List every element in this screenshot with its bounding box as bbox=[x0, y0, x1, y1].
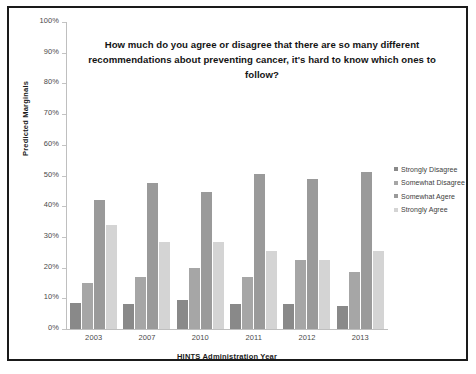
bar bbox=[319, 260, 330, 329]
y-tick-mark bbox=[62, 268, 66, 269]
x-tick-label: 2012 bbox=[280, 333, 333, 342]
bar bbox=[295, 260, 306, 329]
y-tick-mark bbox=[62, 329, 66, 330]
bar bbox=[337, 306, 348, 329]
x-tick-label: 2007 bbox=[120, 333, 173, 342]
bar bbox=[283, 304, 294, 329]
y-axis-title: Predicted Marginals bbox=[21, 81, 30, 156]
y-tick-label: 0% bbox=[48, 323, 59, 332]
chart-legend: Strongly DisagreeSomewhat DisagreeSomewh… bbox=[394, 165, 474, 219]
bar bbox=[70, 303, 81, 329]
y-tick-mark bbox=[62, 83, 66, 84]
legend-label: Strongly Agree bbox=[401, 206, 448, 213]
legend-label: Somewhat Agere bbox=[401, 193, 455, 200]
y-tick-mark bbox=[62, 298, 66, 299]
legend-item: Somewhat Disagree bbox=[394, 179, 474, 187]
legend-swatch-icon bbox=[394, 167, 398, 171]
bar bbox=[159, 242, 170, 329]
bar bbox=[94, 200, 105, 329]
bar bbox=[242, 277, 253, 329]
y-tick-label: 60% bbox=[44, 139, 59, 148]
y-tick-mark bbox=[62, 114, 66, 115]
y-tick-label: 100% bbox=[39, 16, 59, 25]
y-tick-label: 70% bbox=[44, 108, 59, 117]
legend-item: Strongly Agree bbox=[394, 206, 474, 214]
y-tick-label: 40% bbox=[44, 200, 59, 209]
x-tick-label: 2010 bbox=[174, 333, 227, 342]
bar bbox=[106, 225, 117, 329]
x-tick-label: 2013 bbox=[334, 333, 387, 342]
y-tick-mark bbox=[62, 145, 66, 146]
chart-frame: Predicted Marginals 100%90%80%70%60%50%4… bbox=[7, 6, 468, 361]
legend-item: Somewhat Agere bbox=[394, 192, 474, 200]
bar bbox=[254, 174, 265, 329]
y-tick-mark bbox=[62, 176, 66, 177]
y-tick-mark bbox=[62, 53, 66, 54]
y-tick-label: 50% bbox=[44, 170, 59, 179]
bar bbox=[307, 179, 318, 329]
bar bbox=[349, 272, 360, 329]
bar bbox=[147, 183, 158, 329]
legend-label: Strongly Disagree bbox=[401, 166, 458, 173]
y-tick-mark bbox=[62, 237, 66, 238]
y-tick-mark bbox=[62, 206, 66, 207]
x-tick-label: 2011 bbox=[227, 333, 280, 342]
x-tick-label: 2003 bbox=[67, 333, 120, 342]
y-tick-label: 30% bbox=[44, 231, 59, 240]
legend-swatch-icon bbox=[394, 208, 398, 212]
y-tick-label: 20% bbox=[44, 262, 59, 271]
y-tick-label: 10% bbox=[44, 292, 59, 301]
chart-screenshot: Predicted Marginals 100%90%80%70%60%50%4… bbox=[0, 0, 476, 374]
legend-swatch-icon bbox=[394, 194, 398, 198]
bar bbox=[189, 268, 200, 329]
bar bbox=[266, 251, 277, 329]
legend-item: Strongly Disagree bbox=[394, 165, 474, 173]
bar bbox=[373, 251, 384, 329]
bar-group bbox=[120, 22, 173, 329]
y-tick-label: 80% bbox=[44, 77, 59, 86]
bar-group bbox=[67, 22, 120, 329]
bar bbox=[201, 192, 212, 329]
bar bbox=[230, 304, 241, 329]
legend-label: Somewhat Disagree bbox=[401, 179, 465, 186]
bar bbox=[213, 242, 224, 329]
y-tick-label: 90% bbox=[44, 47, 59, 56]
bar-group bbox=[334, 22, 387, 329]
x-axis-title: HINTS Administration Year bbox=[67, 352, 387, 361]
bar-group bbox=[280, 22, 333, 329]
bar bbox=[177, 300, 188, 329]
bar bbox=[82, 283, 93, 329]
x-axis-line bbox=[66, 329, 388, 330]
x-axis-tick-labels: 200320072010201120122013 bbox=[67, 333, 387, 342]
y-tick-mark bbox=[62, 22, 66, 23]
bar bbox=[135, 277, 146, 329]
bar bbox=[361, 172, 372, 329]
bar-group bbox=[174, 22, 227, 329]
bar-groups bbox=[67, 22, 387, 329]
bar-group bbox=[227, 22, 280, 329]
legend-swatch-icon bbox=[394, 181, 398, 185]
bar bbox=[123, 304, 134, 329]
